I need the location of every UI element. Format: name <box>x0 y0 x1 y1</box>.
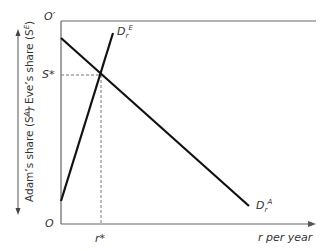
eve-demand-label-sub: r <box>125 32 128 40</box>
edgeworth-share-diagram <box>0 0 328 251</box>
adam-demand-curve <box>61 38 249 206</box>
arrow-down-icon <box>16 208 21 215</box>
x-axis-label-text: r per year <box>258 231 312 244</box>
r-star-label: r* <box>95 233 105 245</box>
eve-share-label: Eve’s share (SE) <box>23 21 35 104</box>
x-axis-label: r per year <box>258 232 312 244</box>
eve-share-label-text: Eve’s share (S <box>23 29 35 104</box>
adam-share-label-sup: A <box>23 112 31 117</box>
adam-demand-label-sub: r <box>264 206 267 214</box>
adam-demand-label-sup: A <box>267 198 272 206</box>
adam-share-label-close: ) <box>23 107 35 111</box>
eve-share-label-sup: E <box>23 25 31 29</box>
origin-bottom-label: O <box>45 218 54 230</box>
x-axis-arrow-icon <box>308 221 316 227</box>
arrow-up-icon <box>16 29 21 36</box>
eve-demand-curve <box>61 33 113 201</box>
s-star-label: S* <box>42 69 54 81</box>
adam-demand-label: DrA <box>256 200 272 212</box>
adam-share-label: Adam’s share (SA) <box>23 107 35 202</box>
eve-demand-label: DrE <box>117 26 133 38</box>
eve-demand-label-sup: E <box>128 24 132 32</box>
adam-share-label-text: Adam’s share (S <box>23 116 35 202</box>
eve-share-label-close: ) <box>23 21 35 25</box>
origin-top-label: O′ <box>44 11 55 23</box>
